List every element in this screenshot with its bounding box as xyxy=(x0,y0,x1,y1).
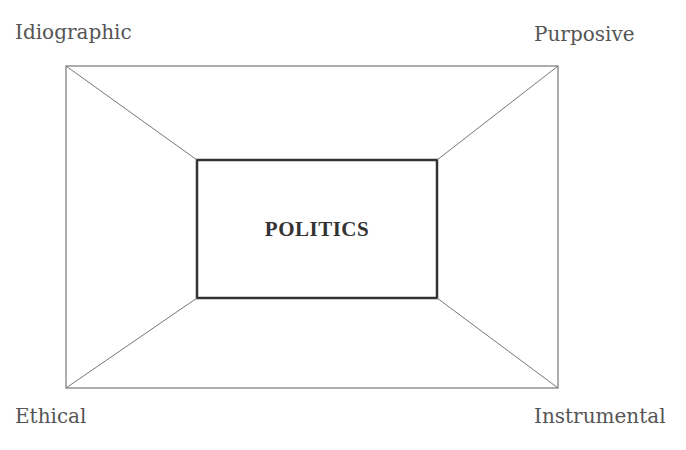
label-purposive: Purposive xyxy=(534,24,635,44)
diagonal-bottom-right xyxy=(437,298,558,388)
diagonal-bottom-left xyxy=(66,298,197,388)
label-ethical: Ethical xyxy=(15,406,86,426)
label-idiographic: Idiographic xyxy=(15,22,132,42)
diagonal-top-right xyxy=(437,66,558,160)
label-instrumental: Instrumental xyxy=(534,406,666,426)
politics-diagram: Idiographic Purposive Ethical Instrument… xyxy=(0,0,686,450)
diagonal-top-left xyxy=(66,66,197,160)
center-label-politics: POLITICS xyxy=(197,160,437,298)
